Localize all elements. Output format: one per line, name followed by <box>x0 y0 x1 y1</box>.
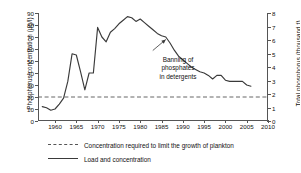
x-tick-label: 1985 <box>155 123 169 130</box>
annotation-line-1: Banning of <box>146 56 210 64</box>
y-right-tick-label: 7 <box>272 23 275 30</box>
x-tick-label: 2010 <box>261 123 275 130</box>
y-left-tick-label: 40 <box>27 70 34 77</box>
x-tick-label: 1970 <box>91 123 105 130</box>
y-right-tick-label: 6 <box>272 37 275 44</box>
x-tick-label: 1990 <box>176 123 190 130</box>
y-left-tick-label: 0 <box>31 118 34 125</box>
legend-label-load: Load and concentration <box>84 156 151 163</box>
plot-area: 0102030405060708090 012345678 1960196519… <box>38 13 268 121</box>
y-axis-right-title: Total phosphorus (thousand t) <box>295 9 301 119</box>
y-left-tick-label: 90 <box>27 10 34 17</box>
x-tick-label: 1960 <box>48 123 62 130</box>
annotation-line-3: in detergents <box>146 73 210 81</box>
annotation-line-2: phosphates <box>146 64 210 72</box>
y-right-tick-label: 1 <box>272 104 275 111</box>
y-right-tick-label: 8 <box>272 10 275 17</box>
y-right-tick-label: 3 <box>272 77 275 84</box>
y-left-tick-label: 70 <box>27 34 34 41</box>
x-tick-label: 1965 <box>69 123 83 130</box>
annotation-banning-phosphates: Banning of phosphates in detergents <box>146 56 210 81</box>
legend-swatch-solid-icon <box>48 156 78 162</box>
x-tick-label: 2005 <box>240 123 254 130</box>
legend: Concentration required to limit the grow… <box>48 138 298 166</box>
phosphorus-chart: Phosphorus concentration (µg/l) Total ph… <box>0 0 300 173</box>
x-tick-label: 2000 <box>219 123 233 130</box>
x-tick-label: 1995 <box>197 123 211 130</box>
x-tick-label: 1975 <box>112 123 126 130</box>
y-left-tick-label: 10 <box>27 106 34 113</box>
legend-label-threshold: Concentration required to limit the grow… <box>84 142 234 149</box>
y-left-tick-label: 50 <box>27 58 34 65</box>
x-tick-label: 1980 <box>133 123 147 130</box>
y-right-tick-label: 4 <box>272 64 275 71</box>
y-left-tick-label: 30 <box>27 82 34 89</box>
y-left-tick-label: 20 <box>27 94 34 101</box>
y-right-tick-label: 5 <box>272 50 275 57</box>
y-left-tick-label: 60 <box>27 46 34 53</box>
y-left-tick <box>35 121 38 122</box>
y-left-tick-label: 80 <box>27 22 34 29</box>
legend-item-load: Load and concentration <box>48 152 298 166</box>
legend-swatch-dashed-icon <box>48 142 78 148</box>
annotation-arrow <box>153 40 166 51</box>
legend-item-threshold: Concentration required to limit the grow… <box>48 138 298 152</box>
y-right-tick-label: 2 <box>272 91 275 98</box>
